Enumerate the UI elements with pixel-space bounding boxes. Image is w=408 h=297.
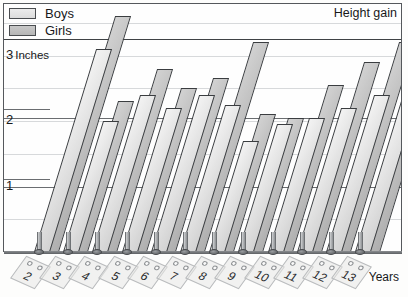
card-hole-icon [182,265,190,271]
height-gain-chart: 3Inches21 Boys Girls Height gain 2345678… [0,0,408,297]
card-hole-icon [347,260,355,266]
pin-base [268,249,278,255]
pin-needle [358,232,363,250]
card-hole-icon [55,260,63,266]
legend-label-boys: Boys [45,6,74,21]
card-hole-icon [230,260,238,266]
card-hole-icon [328,265,336,271]
x-axis-title: Years [369,270,399,284]
card-hole-icon [84,260,92,266]
pin-base [180,249,190,255]
card-hole-icon [318,260,326,266]
legend-label-girls: Girls [45,23,72,38]
legend: Boys Girls [9,5,74,39]
pin-base [297,249,307,255]
axis-pin-year-9 [238,232,249,256]
axis-pin-year-8 [209,232,220,256]
card-hole-icon [201,260,209,266]
card-hole-icon [94,265,102,271]
pin-needle [154,232,159,250]
pin-needle [271,232,276,250]
card-hole-icon [260,260,268,266]
pin-base [122,249,132,255]
card-hole-icon [36,265,44,271]
axis-pin-year-12 [326,232,337,256]
card-hole-icon [357,265,365,271]
pin-base [355,249,365,255]
pin-needle [300,232,305,250]
card-hole-icon [240,265,248,271]
x-axis-label-card-13[interactable]: 13 [331,256,372,289]
chart-title: Height gain [334,6,397,20]
card-hole-icon [172,260,180,266]
pin-needle [125,232,130,250]
pin-needle [183,232,188,250]
pin-base [92,249,102,255]
pin-needle [37,232,42,250]
legend-swatch-boys [9,8,36,19]
axis-pin-year-6 [151,232,162,256]
pin-base [151,249,161,255]
pin-base [63,249,73,255]
pin-needle [241,232,246,250]
legend-item-girls[interactable]: Girls [9,22,74,38]
pin-base [238,249,248,255]
pin-needle [329,232,334,250]
axis-pin-year-4 [92,232,103,256]
card-hole-icon [299,265,307,271]
card-hole-icon [211,265,219,271]
card-hole-icon [114,260,122,266]
axis-pin-year-10 [268,232,279,256]
pin-base [209,249,219,255]
axis-pin-year-11 [297,232,308,256]
axis-pin-year-7 [180,232,191,256]
axis-pin-year-5 [122,232,133,256]
axis-pin-year-2 [34,232,45,256]
axis-pin-year-3 [63,232,74,256]
card-hole-icon [124,265,132,271]
card-hole-icon [289,260,297,266]
plot-area [4,4,401,251]
pin-base [34,249,44,255]
card-hole-icon [153,265,161,271]
pin-needle [212,232,217,250]
pin-base [326,249,336,255]
card-hole-icon [26,260,34,266]
card-hole-icon [65,265,73,271]
legend-item-boys[interactable]: Boys [9,5,74,21]
card-hole-icon [143,260,151,266]
card-hole-icon [270,265,278,271]
pin-needle [95,232,100,250]
axis-pin-year-13 [355,232,366,256]
legend-swatch-girls [9,25,36,36]
pin-needle [66,232,71,250]
